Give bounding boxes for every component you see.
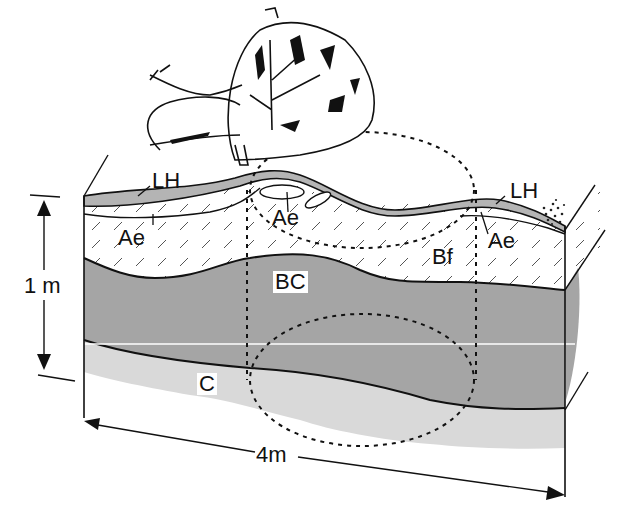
block-top-left-edge — [84, 155, 108, 196]
depth-label: 1 m — [24, 275, 61, 297]
arrow-up-icon — [37, 200, 51, 216]
arrow-left-icon — [84, 418, 100, 430]
ae-lens — [260, 185, 304, 199]
arrow-right-icon — [546, 486, 565, 500]
label-lh-right: LH — [510, 180, 538, 202]
label-lh-left: LH — [152, 170, 180, 192]
width-label: 4m — [256, 444, 287, 466]
label-c: C — [197, 373, 217, 395]
arrow-down-icon — [37, 354, 51, 370]
label-bf: Bf — [432, 246, 453, 268]
label-ae-center: Ae — [272, 207, 299, 229]
soil-profile-diagram — [0, 0, 629, 517]
label-bc: BC — [273, 271, 308, 293]
label-ae-right: Ae — [488, 230, 515, 252]
label-ae-left: Ae — [118, 227, 145, 249]
